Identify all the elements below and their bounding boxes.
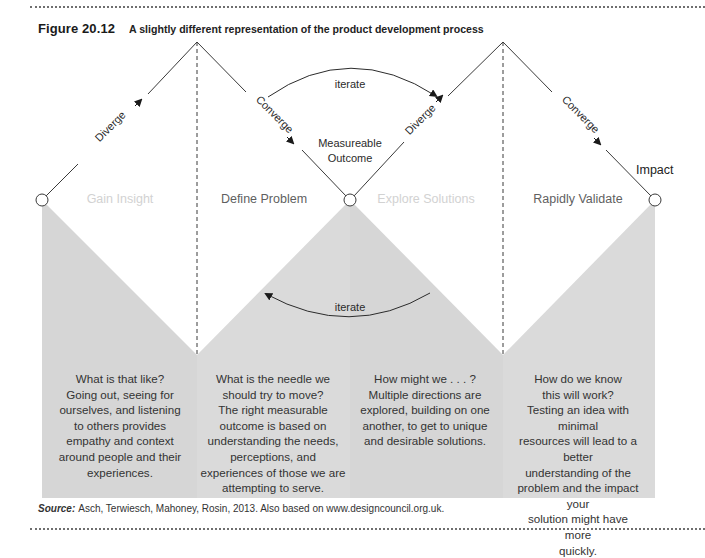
diverge-1-line-a (46, 164, 78, 196)
diverge-1-label: Diverge (93, 109, 128, 144)
source-note: Source:Asch, Terwiesch, Mahoney, Rosin, … (38, 503, 444, 514)
diverge-2-label: Diverge (403, 102, 438, 137)
bottom-dotted-rule (30, 528, 705, 530)
measurable-outcome-node (344, 194, 356, 206)
converge-2-line-a (503, 42, 552, 92)
diverge-1-arrow-icon (135, 100, 141, 106)
converge-2-label: Converge (560, 93, 602, 135)
start-node (36, 194, 48, 206)
phase-label-define-problem: Define Problem (221, 192, 307, 206)
description-define-problem: What is the needle weshould try to move?… (200, 371, 345, 496)
measurable-outcome-label: Measureable Outcome (318, 136, 382, 166)
impact-node (649, 194, 661, 206)
description-gain-insight: What is that like?Going out, seeing foro… (59, 371, 181, 480)
phase-label-explore-solutions: Explore Solutions (377, 192, 474, 206)
iterate-bottom-label: iterate (335, 300, 366, 315)
diverge-2-line-b (448, 42, 503, 96)
diverge-2-arrow-icon (436, 96, 442, 102)
diverge-1-line-b (148, 42, 197, 94)
explore-solutions-panel (350, 200, 503, 498)
converge-2-arrow-icon (594, 138, 600, 144)
phase-label-rapidly-validate: Rapidly Validate (533, 192, 622, 206)
source-label: Source: (38, 503, 75, 514)
source-text: Asch, Terwiesch, Mahoney, Rosin, 2013. A… (78, 503, 444, 514)
phase-label-gain-insight: Gain Insight (87, 192, 154, 206)
converge-1-label: Converge (254, 93, 296, 135)
iterate-top-label: iterate (335, 77, 366, 92)
converge-1-arrow-icon (287, 137, 293, 143)
converge-1-line-a (197, 42, 246, 92)
diamond-lines (46, 42, 651, 196)
impact-label: Impact (636, 163, 674, 177)
description-explore-solutions: How might we . . . ?Multiple directions … (360, 371, 490, 449)
